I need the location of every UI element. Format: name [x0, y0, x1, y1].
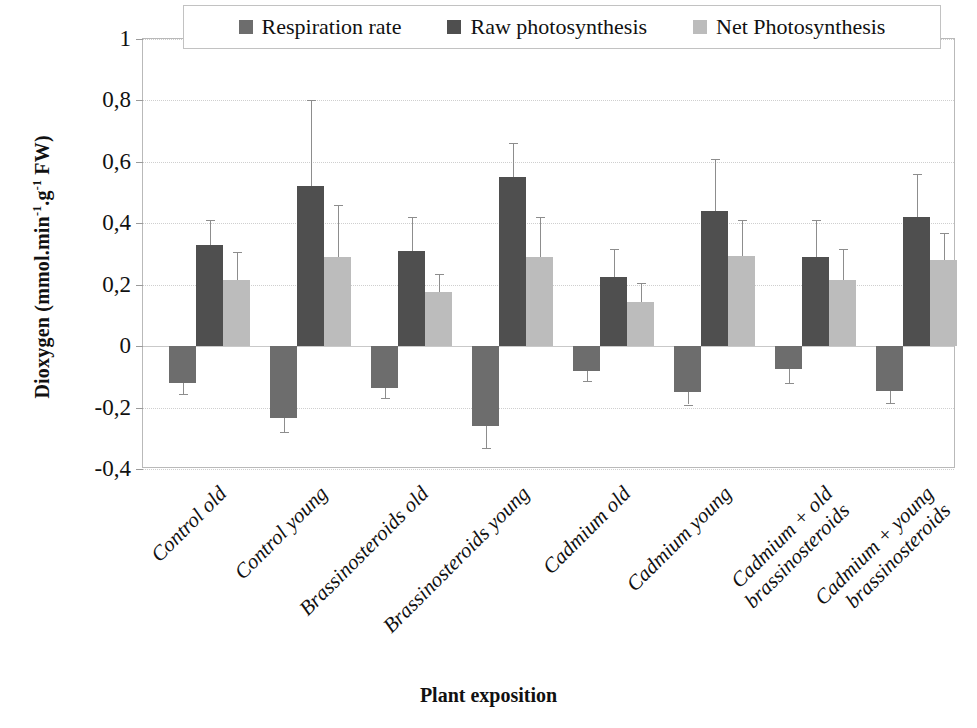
bar[interactable] — [472, 346, 499, 426]
error-bar — [311, 100, 312, 186]
bar[interactable] — [775, 346, 802, 369]
bar[interactable] — [573, 346, 600, 371]
y-axis-title-sup2: -1 — [30, 180, 44, 190]
bar[interactable] — [196, 245, 223, 346]
y-axis-tick — [136, 285, 143, 286]
legend-item[interactable]: Raw photosynthesis — [447, 14, 647, 40]
legend-swatch-icon — [693, 20, 707, 34]
bar-group — [371, 39, 452, 467]
y-axis-tick-label: -0,2 — [41, 395, 131, 421]
x-axis-category-label-line1: Cadmium old — [537, 481, 634, 578]
bar-group — [270, 39, 351, 467]
error-bar — [284, 418, 285, 432]
legend-label: Net Photosynthesis — [716, 14, 885, 40]
error-bar — [412, 217, 413, 251]
error-bar — [540, 217, 541, 257]
error-bar-cap — [610, 249, 619, 250]
bar[interactable] — [499, 177, 526, 346]
gridline — [143, 469, 954, 470]
legend-item[interactable]: Net Photosynthesis — [693, 14, 885, 40]
error-bar — [742, 220, 743, 255]
x-axis-category-label: Cadmium old — [538, 482, 635, 579]
y-axis-tick — [136, 223, 143, 224]
bar[interactable] — [526, 257, 553, 346]
bar-group — [876, 39, 957, 467]
error-bar-cap — [381, 398, 390, 399]
bar[interactable] — [876, 346, 903, 391]
y-axis-tick-label: -0,4 — [41, 456, 131, 482]
plot-area: 10,80,60,40,20-0,2-0,4 — [142, 38, 955, 468]
error-bar-cap — [408, 217, 417, 218]
error-bar — [385, 388, 386, 399]
x-axis-category-label: Control old — [146, 482, 231, 567]
bar[interactable] — [169, 346, 196, 383]
error-bar-cap — [280, 432, 289, 433]
error-bar-cap — [839, 249, 848, 250]
bar[interactable] — [270, 346, 297, 418]
y-axis-tick-label: 0,2 — [41, 272, 131, 298]
y-axis-tick — [136, 346, 143, 347]
error-bar — [843, 249, 844, 280]
bar[interactable] — [674, 346, 701, 392]
error-bar-cap — [637, 283, 646, 284]
error-bar-cap — [886, 403, 895, 404]
error-bar-cap — [785, 383, 794, 384]
y-axis-tick — [136, 100, 143, 101]
error-bar-cap — [179, 394, 188, 395]
bar[interactable] — [627, 302, 654, 347]
bar[interactable] — [223, 280, 250, 346]
error-bar-cap — [684, 405, 693, 406]
legend-item[interactable]: Respiration rate — [239, 14, 402, 40]
error-bar-cap — [206, 220, 215, 221]
error-bar-cap — [913, 174, 922, 175]
x-axis-title: Plant exposition — [0, 684, 977, 707]
bar[interactable] — [728, 256, 755, 347]
y-axis-tick — [136, 162, 143, 163]
bar[interactable] — [297, 186, 324, 346]
bar-group — [674, 39, 755, 467]
y-axis-tick-label: 0,6 — [41, 149, 131, 175]
error-bar-cap — [233, 252, 242, 253]
legend-label: Raw photosynthesis — [470, 14, 647, 40]
bar[interactable] — [701, 211, 728, 346]
bar[interactable] — [398, 251, 425, 346]
bar[interactable] — [425, 292, 452, 346]
error-bar — [183, 383, 184, 394]
y-axis-tick-label: 0 — [41, 333, 131, 359]
bar[interactable] — [903, 217, 930, 346]
bar-group — [472, 39, 553, 467]
y-axis-tick — [136, 39, 143, 40]
x-axis-category-label: Control young — [230, 482, 332, 584]
y-axis-tick-label: 0,4 — [41, 210, 131, 236]
legend-label: Respiration rate — [262, 14, 402, 40]
y-axis-tick — [136, 408, 143, 409]
legend-swatch-icon — [447, 20, 461, 34]
error-bar — [641, 283, 642, 301]
bar-group — [573, 39, 654, 467]
error-bar-cap — [940, 233, 949, 234]
error-bar-cap — [509, 143, 518, 144]
error-bar-cap — [711, 159, 720, 160]
error-bar — [486, 426, 487, 448]
error-bar-cap — [334, 205, 343, 206]
error-bar-cap — [738, 220, 747, 221]
error-bar — [237, 252, 238, 280]
error-bar — [210, 220, 211, 245]
error-bar — [917, 174, 918, 217]
bar[interactable] — [371, 346, 398, 387]
bar[interactable] — [802, 257, 829, 346]
error-bar — [439, 274, 440, 292]
chart-figure: Dioxygen (mmol.min-1.g-1 FW) 10,80,60,40… — [0, 0, 977, 728]
x-axis-category-label-line1: Control young — [229, 481, 332, 584]
error-bar-cap — [536, 217, 545, 218]
bar-group — [169, 39, 250, 467]
bar[interactable] — [829, 280, 856, 346]
bar[interactable] — [324, 257, 351, 346]
error-bar — [513, 143, 514, 177]
error-bar — [587, 371, 588, 382]
bar[interactable] — [930, 260, 957, 346]
error-bar-cap — [482, 448, 491, 449]
bar[interactable] — [600, 277, 627, 346]
error-bar — [890, 391, 891, 403]
error-bar — [338, 205, 339, 257]
